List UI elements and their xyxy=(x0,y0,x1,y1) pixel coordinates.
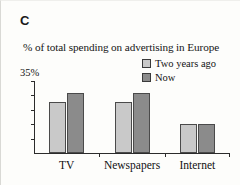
chart-figure: C % of total spending on advertising in … xyxy=(0,0,240,185)
bar xyxy=(198,124,215,153)
chart-subtitle: % of total spending on advertising in Eu… xyxy=(23,41,219,53)
y-axis-max-label: 35% xyxy=(20,67,39,78)
legend-swatch-icon-two-years-ago xyxy=(142,59,151,68)
x-axis-tick xyxy=(99,153,100,157)
x-axis-label-internet: Internet xyxy=(179,159,215,171)
bar xyxy=(49,102,66,153)
y-axis-tick xyxy=(31,110,35,111)
panel-label: C xyxy=(20,13,30,28)
bar xyxy=(115,102,132,153)
x-axis-line xyxy=(34,153,230,154)
x-axis-tick xyxy=(229,153,230,157)
y-axis-tick xyxy=(31,81,35,82)
bar xyxy=(67,93,84,153)
y-axis-tick xyxy=(31,95,35,96)
legend-label-two-years-ago: Two years ago xyxy=(155,58,216,69)
legend-item-two-years-ago: Two years ago xyxy=(142,57,216,70)
x-axis-label-newspapers: Newspapers xyxy=(104,159,160,171)
y-axis-line xyxy=(34,81,35,153)
x-axis-tick xyxy=(165,153,166,157)
bar xyxy=(180,124,197,153)
x-axis-label-tv: TV xyxy=(59,159,74,171)
y-axis-tick xyxy=(31,124,35,125)
y-axis-tick xyxy=(31,139,35,140)
plot-area: TVNewspapersInternet xyxy=(34,81,230,153)
bar xyxy=(133,93,150,153)
